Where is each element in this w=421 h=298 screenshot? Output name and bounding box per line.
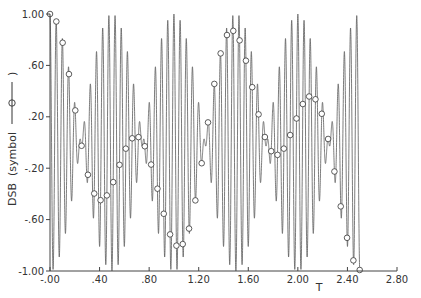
data-marker <box>148 162 154 168</box>
data-marker <box>300 101 306 107</box>
x-tick-label: 2.00 <box>287 274 309 285</box>
data-marker <box>98 197 104 203</box>
data-marker <box>136 134 142 140</box>
data-marker <box>60 40 66 46</box>
data-marker <box>319 111 325 117</box>
data-marker <box>332 169 338 175</box>
data-marker <box>212 81 218 87</box>
x-tick-label: .40 <box>92 274 108 285</box>
data-marker <box>306 94 312 100</box>
data-marker <box>357 267 363 273</box>
x-tick-label: 1.60 <box>237 274 259 285</box>
data-marker <box>91 191 97 197</box>
data-marker <box>313 96 319 102</box>
data-marker <box>186 226 192 232</box>
data-marker <box>66 71 72 77</box>
data-marker <box>123 146 129 152</box>
data-marker <box>243 58 249 64</box>
signal-line <box>50 14 360 271</box>
data-marker <box>193 198 199 204</box>
dsb-chart: -.00.40.801.201.602.002.402.80 1.00.60.2… <box>0 0 421 298</box>
data-marker <box>117 162 123 168</box>
data-marker <box>268 148 274 154</box>
y-tick-label: .60 <box>28 60 44 71</box>
data-marker <box>281 146 287 152</box>
x-tick-label: .80 <box>141 274 157 285</box>
data-marker <box>167 232 173 238</box>
x-tick-label: 2.80 <box>386 274 408 285</box>
x-tick-label: 2.40 <box>336 274 358 285</box>
data-marker <box>351 258 357 264</box>
y-axis-title-close: ) <box>6 72 19 76</box>
data-marker <box>237 38 243 44</box>
data-marker <box>344 235 350 241</box>
data-marker <box>218 51 224 57</box>
dsb-waveform <box>50 14 360 271</box>
data-marker <box>104 193 110 199</box>
data-marker <box>199 160 205 166</box>
data-marker <box>262 134 268 140</box>
data-marker <box>249 84 255 90</box>
y-axis-title: DSB (symbol ) <box>6 72 19 206</box>
x-tick-label: 1.20 <box>188 274 210 285</box>
data-marker <box>230 28 236 34</box>
y-tick-label: 1.00 <box>22 9 44 20</box>
y-axis-title-name: DSB <box>6 183 19 206</box>
data-marker <box>79 143 85 149</box>
data-marker <box>174 243 180 249</box>
data-marker <box>275 152 281 158</box>
y-ticks: 1.00.60.20-.20-.60-1.00 <box>18 9 50 277</box>
data-marker <box>256 112 262 118</box>
data-marker <box>85 172 91 178</box>
x-axis-title: T <box>315 281 323 294</box>
data-marker <box>338 204 344 210</box>
y-axis-title-symbol: (symbol <box>6 132 19 176</box>
y-tick-label: -1.00 <box>18 266 44 277</box>
data-marker <box>155 186 161 192</box>
y-tick-label: -.60 <box>24 214 44 225</box>
data-marker <box>180 241 186 247</box>
data-marker <box>205 120 211 126</box>
data-marker <box>224 32 230 38</box>
data-marker <box>54 19 60 25</box>
y-tick-label: .20 <box>28 111 44 122</box>
y-tick-label: -.20 <box>24 163 44 174</box>
data-marker <box>129 136 135 142</box>
x-ticks: -.00.40.801.201.602.002.402.80 <box>40 267 408 285</box>
data-marker <box>161 211 167 217</box>
data-marker <box>287 132 293 138</box>
data-marker <box>110 179 116 185</box>
data-marker <box>72 108 78 114</box>
data-marker <box>325 136 331 142</box>
data-marker <box>142 143 148 149</box>
data-marker <box>294 116 300 122</box>
